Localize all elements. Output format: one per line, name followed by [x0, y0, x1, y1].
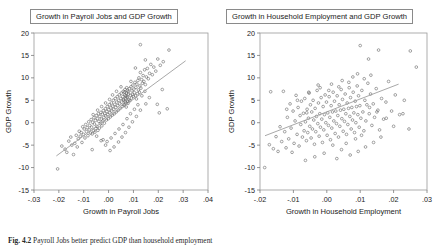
svg-text:20: 20	[21, 29, 29, 38]
figure-caption-number: Fig. 4.2	[8, 236, 31, 245]
figure-caption: Fig. 4.2 Payroll Jobs better predict GDP…	[8, 236, 438, 245]
svg-text:10: 10	[247, 73, 255, 82]
svg-text:.03: .03	[178, 195, 188, 204]
svg-text:-.03: -.03	[28, 195, 40, 204]
svg-text:-15: -15	[19, 186, 29, 195]
figure-container: Growth in Payroll Jobs and GDP Growth -1…	[0, 0, 442, 246]
svg-text:-.02: -.02	[53, 195, 65, 204]
chart-panel-household-employment: Growth in Household Employment and GDP G…	[220, 0, 442, 232]
chart-panel-payroll-jobs: Growth in Payroll Jobs and GDP Growth -1…	[0, 0, 220, 232]
svg-text:GDP Growth: GDP Growth	[4, 90, 13, 133]
svg-text:-5: -5	[23, 141, 29, 150]
svg-text:15: 15	[21, 51, 29, 60]
svg-text:.01: .01	[128, 195, 138, 204]
svg-text:-10: -10	[245, 163, 255, 172]
svg-text:-.01: -.01	[78, 195, 90, 204]
svg-text:.00: .00	[322, 195, 332, 204]
svg-text:20: 20	[247, 29, 255, 38]
svg-text:GDP Growth: GDP Growth	[227, 90, 236, 133]
svg-text:Growth in Household Employment: Growth in Household Employment	[286, 207, 402, 216]
svg-text:5: 5	[251, 96, 255, 105]
svg-text:10: 10	[21, 73, 29, 82]
svg-text:Growth in Payroll Jobs: Growth in Payroll Jobs	[83, 207, 159, 216]
svg-text:.03: .03	[422, 195, 432, 204]
svg-text:.02: .02	[389, 195, 399, 204]
svg-text:.00: .00	[104, 195, 114, 204]
svg-text:0: 0	[25, 118, 29, 127]
scatter-plot-household-employment: -15-10-505101520-.02-.01.00.01.02.03Grow…	[220, 0, 442, 232]
svg-text:15: 15	[247, 51, 255, 60]
svg-text:.01: .01	[355, 195, 365, 204]
svg-text:-5: -5	[249, 141, 255, 150]
svg-text:-.02: -.02	[254, 195, 266, 204]
svg-text:-.01: -.01	[287, 195, 299, 204]
svg-text:0: 0	[251, 118, 255, 127]
svg-text:.02: .02	[153, 195, 163, 204]
svg-text:5: 5	[25, 96, 29, 105]
svg-text:.04: .04	[203, 195, 213, 204]
figure-caption-text: Payroll Jobs better predict GDP than hou…	[33, 236, 212, 245]
scatter-plot-payroll-jobs: -15-10-505101520-.03-.02-.01.00.01.02.03…	[0, 0, 220, 232]
svg-text:-15: -15	[245, 186, 255, 195]
svg-text:-10: -10	[19, 163, 29, 172]
